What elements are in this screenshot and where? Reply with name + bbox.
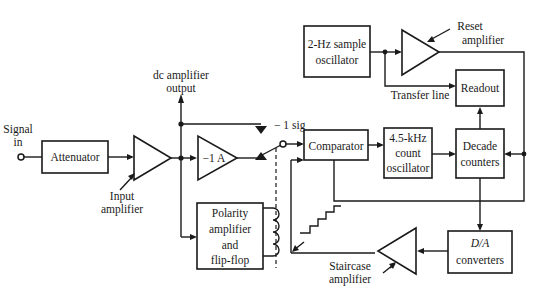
decade-label-1: Decade bbox=[463, 140, 497, 152]
polarity-label-4: flip-flop bbox=[211, 254, 250, 267]
readout-block: Readout bbox=[456, 70, 504, 106]
staircase-waveform-icon bbox=[300, 206, 341, 233]
dc-output-label-2: output bbox=[166, 82, 196, 95]
attenuator-label: Attenuator bbox=[50, 151, 99, 163]
input-amplifier-label-2: amplifier bbox=[101, 203, 143, 216]
signal-in-label: Signal bbox=[3, 123, 32, 136]
input-terminal bbox=[18, 154, 24, 160]
attenuator-block: Attenuator bbox=[42, 141, 108, 173]
staircase-amplifier bbox=[378, 228, 416, 274]
staircase-amplifier-label-2: amplifier bbox=[329, 273, 371, 286]
count-oscillator-block: 4.5-kHz count oscillator bbox=[384, 128, 432, 178]
da-label-2: converters bbox=[456, 254, 504, 266]
decade-label-2: counters bbox=[461, 156, 500, 168]
sample-oscillator-block: 2-Hz sample oscillator bbox=[304, 26, 370, 77]
dc-output-label: dc amplifier bbox=[153, 69, 209, 82]
comparator-block: Comparator bbox=[304, 130, 368, 160]
count-osc-label-2: count bbox=[395, 147, 421, 159]
block-diagram: Signal in Attenuator Input amplifier dc … bbox=[0, 0, 542, 295]
readout-label: Readout bbox=[461, 82, 500, 94]
polarity-label-2: amplifier bbox=[209, 223, 251, 236]
decade-counters-block: Decade counters bbox=[456, 129, 504, 178]
sample-osc-label-1: 2-Hz sample bbox=[308, 38, 366, 51]
minus-sig-label: − 1 sig bbox=[274, 119, 306, 132]
input-amplifier bbox=[134, 136, 171, 180]
reset-amplifier-label: Reset bbox=[457, 20, 483, 32]
sample-osc-label-2: oscillator bbox=[316, 54, 359, 66]
da-converters-block: D/A converters bbox=[448, 231, 512, 273]
polarity-label-3: and bbox=[222, 239, 239, 251]
count-osc-label-1: 4.5-kHz bbox=[389, 132, 426, 144]
polarity-flipflop-block: Polarity amplifier and flip-flop bbox=[197, 203, 263, 269]
transfer-line-label: Transfer line bbox=[391, 89, 450, 101]
polarity-switch-contact bbox=[280, 141, 286, 147]
polarity-label-1: Polarity bbox=[212, 207, 249, 220]
count-osc-label-3: oscillator bbox=[387, 162, 430, 174]
input-amplifier-label: Input bbox=[110, 190, 135, 203]
inverter-label: −1 A bbox=[203, 152, 226, 164]
reset-amplifier bbox=[402, 30, 439, 75]
da-label-1: D/A bbox=[470, 237, 491, 249]
comparator-label: Comparator bbox=[309, 140, 364, 153]
inverter-amplifier: −1 A bbox=[198, 136, 237, 180]
signal-in-label-2: in bbox=[14, 136, 23, 148]
reset-amplifier-label-2: amplifier bbox=[462, 34, 504, 47]
staircase-amplifier-label: Staircase bbox=[329, 260, 371, 272]
